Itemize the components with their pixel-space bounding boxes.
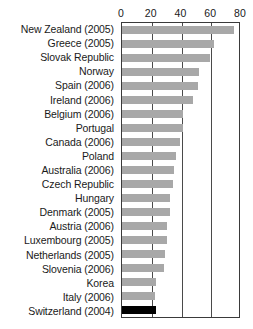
bar-row [122, 275, 239, 289]
bar [122, 264, 164, 272]
category-label: Spain (2006) [0, 78, 118, 92]
bar-highlighted [122, 306, 156, 314]
category-label: Austria (2006) [0, 219, 118, 233]
bar-row [122, 247, 239, 261]
bar [122, 110, 183, 118]
x-axis-tick-labels: 020406080 [0, 7, 253, 21]
category-label: Luxembourg (2005) [0, 233, 118, 247]
bar [122, 292, 155, 300]
bar-row [122, 177, 239, 191]
x-tick-label: 40 [174, 7, 186, 20]
bar [122, 54, 210, 62]
plot-area [121, 22, 240, 318]
bar-row [122, 163, 239, 177]
category-label: Denmark (2005) [0, 205, 118, 219]
bar [122, 222, 167, 230]
x-tick-label: 20 [145, 7, 157, 20]
bar-row [122, 289, 239, 303]
category-label: Norway [0, 64, 118, 78]
bar-row [122, 261, 239, 275]
bar-row [122, 219, 239, 233]
bar-row [122, 65, 239, 79]
bar-row [122, 205, 239, 219]
category-label: Australia (2006) [0, 163, 118, 177]
bar-row [122, 79, 239, 93]
bar-row [122, 37, 239, 51]
bar [122, 166, 174, 174]
bar-series [122, 23, 239, 317]
bar [122, 26, 234, 34]
figure-caption [0, 318, 253, 329]
bar-row [122, 303, 239, 317]
category-label: Belgium (2006) [0, 107, 118, 121]
bar-row [122, 233, 239, 247]
bar-row [122, 23, 239, 37]
bar-row [122, 121, 239, 135]
category-label: Ireland (2006) [0, 92, 118, 106]
bar [122, 236, 167, 244]
category-label: Canada (2006) [0, 135, 118, 149]
category-label: Hungary [0, 191, 118, 205]
bar [122, 194, 170, 202]
bar [122, 180, 173, 188]
bar-row [122, 93, 239, 107]
category-label: Switzerland (2004) [0, 304, 118, 318]
category-label: Italy (2006) [0, 290, 118, 304]
x-tick-label: 80 [234, 7, 246, 20]
category-label: New Zealand (2005) [0, 22, 118, 36]
category-label: Poland [0, 149, 118, 163]
bar [122, 40, 214, 48]
x-tick-label: 60 [204, 7, 216, 20]
category-label: Slovak Republic [0, 50, 118, 64]
bar [122, 82, 198, 90]
bar [122, 68, 199, 76]
category-label: Czech Republic [0, 177, 118, 191]
bar [122, 124, 183, 132]
x-tick-label: 0 [118, 7, 124, 20]
bar-row [122, 149, 239, 163]
bar [122, 152, 176, 160]
category-label: Korea [0, 276, 118, 290]
bar-chart: 020406080 New Zealand (2005)Greece (2005… [0, 0, 253, 329]
bar [122, 96, 193, 104]
category-label: Portugal [0, 121, 118, 135]
bar [122, 278, 156, 286]
category-label: Greece (2005) [0, 36, 118, 50]
category-label: Netherlands (2005) [0, 248, 118, 262]
bar-row [122, 51, 239, 65]
category-label: Slovenia (2006) [0, 262, 118, 276]
bar [122, 250, 165, 258]
bar-row [122, 107, 239, 121]
bar [122, 208, 170, 216]
bar [122, 138, 180, 146]
bar-row [122, 191, 239, 205]
bar-row [122, 135, 239, 149]
category-axis-labels: New Zealand (2005)Greece (2005)Slovak Re… [0, 22, 118, 318]
